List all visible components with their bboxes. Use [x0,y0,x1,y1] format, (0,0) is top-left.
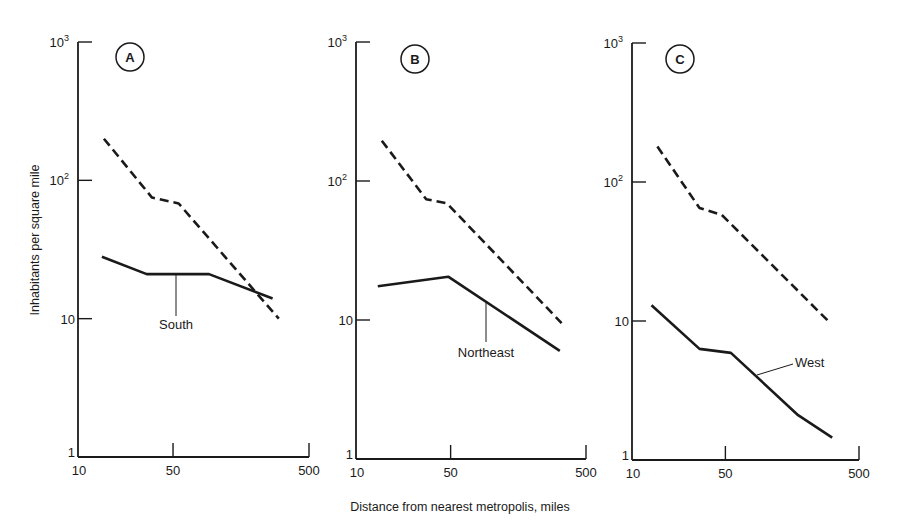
panel-a: 1101021031050500SouthA [50,33,320,478]
y-axis-title: Inhabitants per square mile [28,165,42,316]
panel-c: 1101021031050500WestC [604,34,870,481]
y-tick-label: 10 [615,314,629,329]
x-tick-label: 500 [848,466,870,481]
solid-line-west [652,305,833,437]
y-tick-label: 1 [622,448,629,463]
solid-line-south [102,257,273,299]
x-tick-label: 10 [72,463,86,478]
x-tick-label: 10 [350,465,364,480]
y-tick-label: 10 [339,313,353,328]
x-tick-label: 500 [575,465,597,480]
x-tick-label: 500 [298,463,320,478]
x-tick-label: 10 [626,466,640,481]
y-tick-label: 102 [604,173,623,190]
y-tick-label: 10 [61,312,75,327]
series-label: South [159,317,193,332]
x-axis-title: Distance from nearest metropolis, miles [350,500,570,514]
panel-letter: C [675,52,685,67]
y-tick-label: 102 [50,171,69,188]
x-tick-label: 50 [443,465,457,480]
y-tick-label: 103 [50,33,69,50]
x-tick-label: 50 [166,463,180,478]
dashed-line-national [382,141,562,323]
series-label: Northeast [458,345,515,360]
y-tick-label: 1 [346,447,353,462]
y-tick-label: 103 [328,33,347,50]
y-tick-label: 103 [604,34,623,51]
dashed-line-national [657,147,829,323]
y-tick-label: 1 [68,445,75,460]
label-leader-line [757,364,793,375]
x-tick-label: 50 [718,466,732,481]
chart-panels: 1101021031050500SouthA1101021031050500No… [50,33,870,481]
panel-b: 1101021031050500NortheastB [328,33,597,480]
series-label: West [795,355,825,370]
y-tick-label: 102 [328,172,347,189]
figure: 1101021031050500SouthA1101021031050500No… [0,0,897,531]
panel-letter: A [125,50,135,65]
panel-letter: B [410,52,419,67]
solid-line-northeast [378,277,560,351]
